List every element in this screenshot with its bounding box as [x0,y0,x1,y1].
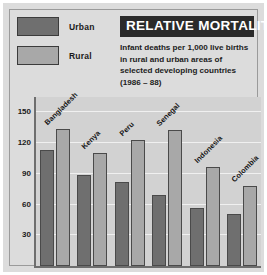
y-axis-tick-label: 60 [22,199,31,208]
bar-urban [40,150,54,266]
bar-urban [115,182,129,266]
bar-groups: BangladeshKenyaPeruSenegalIndonesiaColom… [36,97,261,266]
bar-urban [77,175,91,266]
bar-group: Bangladesh [36,97,74,266]
y-axis-tick-label: 120 [18,138,31,147]
y-axis-tick-label: 150 [18,107,31,116]
bar-group: Senegal [149,97,187,266]
chart-subtitle: Infant deaths per 1,000 live births in r… [120,42,254,88]
country-label: Kenya [80,129,102,151]
bar-rural [206,167,220,266]
country-label: Senegal [155,101,182,128]
chart-title: RELATIVE MORTALITY [120,16,254,37]
country-label: Indonesia [192,133,223,164]
legend-label-rural: Rural [69,51,92,61]
legend-swatch-urban [17,17,59,36]
bar-rural [168,130,182,266]
legend-item-rural: Rural [17,46,115,65]
legend-swatch-rural [17,46,59,65]
title-block: RELATIVE MORTALITY Infant deaths per 1,0… [120,16,254,88]
legend-item-urban: Urban [17,17,115,36]
y-axis-tick-label: 90 [22,168,31,177]
country-label: Colombia [230,153,261,184]
bar-group: Peru [111,97,149,266]
bar-group: Kenya [74,97,112,266]
chart-legend: Urban Rural [17,17,115,75]
bar-group: Colombia [224,97,262,266]
plot-area: 306090120150 BangladeshKenyaPeruSenegalI… [34,97,261,268]
bar-rural [131,140,145,266]
bar-group: Indonesia [186,97,224,266]
bar-rural [243,186,257,266]
chart-figure: Urban Rural RELATIVE MORTALITY Infant de… [0,0,267,275]
bar-urban [152,195,166,266]
bar-urban [227,214,241,266]
legend-label-urban: Urban [69,22,95,32]
country-label: Peru [117,120,135,138]
y-axis-tick-label: 30 [22,230,31,239]
bar-rural [93,153,107,266]
bar-urban [190,208,204,266]
bar-rural [56,129,70,266]
